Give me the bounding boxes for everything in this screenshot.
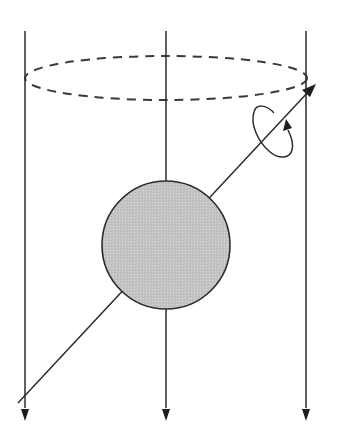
diagram-canvas — [0, 0, 337, 436]
sphere — [102, 181, 230, 309]
rotation-arrow-icon — [283, 119, 292, 131]
rotation-loop — [253, 106, 293, 157]
arrow-down-icon — [302, 409, 310, 421]
arrow-down-icon — [162, 409, 170, 421]
arrow-down-icon — [21, 409, 29, 421]
field-line-left — [21, 31, 29, 421]
arrow-up-right-icon — [302, 84, 316, 97]
